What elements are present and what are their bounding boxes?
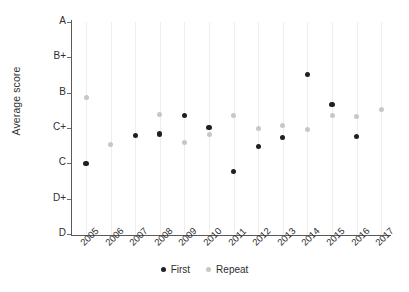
data-point-repeat (231, 113, 236, 118)
legend-entry[interactable]: Repeat (206, 264, 248, 275)
y-tick-label: B+ (40, 51, 66, 61)
data-point-repeat (305, 127, 310, 132)
y-tick-label: D (40, 228, 66, 238)
gridline (111, 22, 112, 234)
y-tick-label: C (40, 157, 66, 167)
data-point-repeat (207, 132, 212, 137)
data-point-repeat (354, 114, 359, 119)
data-point-first (157, 131, 162, 136)
x-tick-label: 2009 (176, 225, 199, 248)
scatter-chart: Average score AB+BC+CD+D 200520062007200… (0, 0, 409, 292)
legend-swatch-icon (206, 267, 211, 272)
data-point-repeat (256, 126, 261, 131)
data-point-repeat (330, 113, 335, 118)
y-tick-label: D+ (40, 193, 66, 203)
data-point-repeat (157, 112, 162, 117)
data-point-first (206, 125, 211, 130)
data-point-first (354, 134, 359, 139)
gridline (184, 22, 185, 234)
x-tick-label: 2008 (152, 225, 175, 248)
y-axis-line (71, 20, 72, 235)
data-point-first (280, 135, 285, 140)
data-point-first (83, 161, 88, 166)
x-tick-label: 2011 (226, 226, 248, 248)
gridline (234, 22, 235, 234)
y-tick-label: B (40, 87, 66, 97)
x-tick-label: 2005 (78, 225, 101, 248)
y-tick-label: A (40, 16, 66, 26)
x-tick-label: 2014 (299, 225, 322, 248)
data-point-first (305, 72, 310, 77)
data-point-repeat (280, 123, 285, 128)
gridline (332, 22, 333, 234)
data-point-first (231, 169, 236, 174)
x-tick-label: 2010 (201, 225, 224, 248)
x-tick-label: 2015 (324, 225, 347, 248)
data-point-first (133, 133, 138, 138)
data-point-first (329, 102, 334, 107)
gridline (381, 22, 382, 234)
legend-label: First (171, 264, 190, 275)
x-tick-label: 2007 (127, 225, 150, 248)
data-point-repeat (182, 140, 187, 145)
x-tick-label: 2006 (103, 225, 126, 248)
gridline (135, 22, 136, 234)
gridline (357, 22, 358, 234)
data-point-first (182, 113, 187, 118)
legend-label: Repeat (216, 264, 248, 275)
x-tick-label: 2017 (373, 225, 396, 248)
data-point-repeat (379, 107, 384, 112)
y-tick-label: C+ (40, 122, 66, 132)
y-axis-title: Average score (10, 41, 22, 161)
legend-swatch-icon (161, 267, 166, 272)
gridline (160, 22, 161, 234)
gridline (283, 22, 284, 234)
x-tick-label: 2013 (275, 225, 298, 248)
data-point-first (256, 144, 261, 149)
x-tick-label: 2012 (250, 225, 273, 248)
x-tick-label: 2016 (349, 225, 372, 248)
data-point-repeat (108, 142, 113, 147)
legend-entry[interactable]: First (161, 264, 190, 275)
gridline (86, 22, 87, 234)
data-point-repeat (84, 95, 89, 100)
chart-legend: FirstRepeat (0, 264, 409, 275)
